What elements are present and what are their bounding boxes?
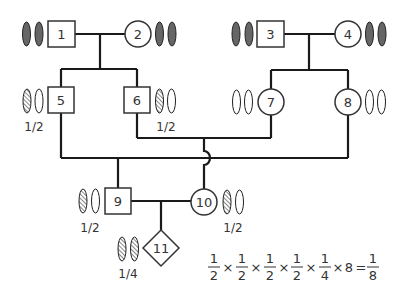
chromosome-empty-icon [168, 89, 176, 113]
chromosome-icon [378, 22, 386, 46]
fraction-denominator: 2 [210, 268, 218, 283]
multiply-sign: × [306, 260, 317, 275]
multiply-sign: × [333, 260, 344, 275]
individual-11: 11 1/4 [118, 230, 179, 281]
chromosome-empty-icon [35, 89, 43, 113]
individual-3: 3 [232, 21, 284, 47]
result-numerator: 1 [369, 251, 377, 266]
individual-10: 10 1/2 [191, 189, 244, 235]
probability-label: 1/2 [223, 221, 242, 235]
chromosome-hatched-icon [118, 237, 126, 261]
individual-6: 6 1/2 [124, 87, 176, 134]
individual-label: 5 [57, 93, 65, 108]
probability-label: 1/4 [118, 267, 137, 281]
chromosome-icon [23, 22, 31, 46]
multiplier: 8 [345, 260, 353, 275]
fraction-numerator: 1 [293, 251, 301, 266]
individual-label: 10 [196, 195, 213, 210]
individual-4: 4 [335, 21, 386, 47]
chromosome-hatched-icon [156, 89, 164, 113]
probability-formula: 1 2 × 1 2 × 1 2 × 1 2 × 1 4 × 8 = 1 8 [208, 251, 379, 283]
descent-line-to-10 [204, 138, 210, 189]
probability-label: 1/2 [24, 120, 43, 134]
fraction-denominator: 2 [238, 268, 246, 283]
chromosome-hatched-icon [79, 189, 87, 213]
fraction-numerator: 1 [210, 251, 218, 266]
chromosome-empty-icon [366, 90, 374, 114]
multiply-sign: × [279, 260, 290, 275]
probability-label: 1/2 [80, 221, 99, 235]
individual-8: 8 [335, 89, 386, 115]
chromosome-hatched-icon [223, 190, 231, 214]
pedigree-diagram: 1 2 3 4 5 1/2 6 1/2 [0, 0, 404, 299]
chromosome-hatched-icon [131, 237, 139, 261]
individual-label: 8 [344, 95, 352, 110]
chromosome-empty-icon [233, 90, 241, 114]
fraction-denominator: 2 [266, 268, 274, 283]
equals-sign: = [356, 260, 367, 275]
individual-7: 7 [233, 89, 285, 115]
individual-label: 9 [114, 194, 122, 209]
chromosome-empty-icon [236, 190, 244, 214]
individual-label: 3 [266, 27, 274, 42]
individual-9: 9 1/2 [79, 188, 131, 235]
chromosome-icon [156, 22, 164, 46]
individual-label: 6 [133, 93, 141, 108]
result-denominator: 8 [369, 268, 377, 283]
fraction-denominator: 2 [293, 268, 301, 283]
chromosome-icon [232, 22, 240, 46]
fraction-numerator: 1 [321, 251, 329, 266]
multiply-sign: × [251, 260, 262, 275]
chromosome-hatched-icon [23, 89, 31, 113]
chromosome-empty-icon [378, 90, 386, 114]
chromosome-empty-icon [92, 189, 100, 213]
individual-2: 2 [125, 21, 176, 47]
chromosome-empty-icon [245, 90, 253, 114]
probability-label: 1/2 [156, 120, 175, 134]
individual-label: 4 [344, 27, 352, 42]
fraction-numerator: 1 [266, 251, 274, 266]
individual-label: 7 [267, 95, 275, 110]
individual-1: 1 [23, 21, 76, 47]
fraction-numerator: 1 [238, 251, 246, 266]
individual-5: 5 1/2 [23, 87, 74, 134]
chromosome-icon [35, 22, 43, 46]
chromosome-icon [245, 22, 253, 46]
individual-label: 11 [153, 241, 170, 256]
individual-label: 1 [57, 27, 65, 42]
chromosome-icon [168, 22, 176, 46]
individual-label: 2 [134, 27, 142, 42]
fraction-denominator: 4 [321, 268, 329, 283]
multiply-sign: × [223, 260, 234, 275]
chromosome-icon [366, 22, 374, 46]
